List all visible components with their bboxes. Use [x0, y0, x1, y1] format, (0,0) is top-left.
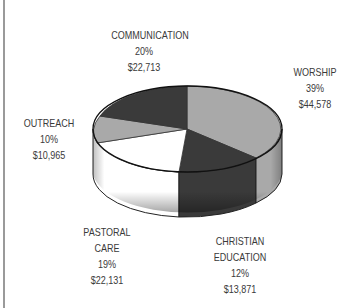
label-worship-amount: $44,578: [286, 96, 343, 112]
label-communication-pct: 20%: [111, 43, 177, 59]
label-outreach-pct: 10%: [24, 131, 75, 147]
label-worship: WORSHIP 39% $44,578: [286, 64, 343, 112]
label-pastoral-care-name2: CARE: [82, 240, 131, 256]
label-communication: COMMUNICATION 20% $22,713: [111, 27, 177, 75]
label-christian-education-pct: 12%: [211, 265, 268, 281]
label-worship-pct: 39%: [286, 80, 343, 96]
label-communication-amount: $22,713: [111, 59, 177, 75]
label-outreach-amount: $10,965: [24, 147, 75, 163]
label-pastoral-care-amount: $22,131: [82, 272, 131, 288]
label-christian-education-amount: $13,871: [211, 281, 268, 297]
label-christian-education-name2: EDUCATION: [211, 249, 268, 265]
label-pastoral-care-name1: PASTORAL: [82, 224, 131, 240]
label-pastoral-care-pct: 19%: [82, 256, 131, 272]
label-outreach-name: OUTREACH: [24, 115, 75, 131]
label-outreach: OUTREACH 10% $10,965: [24, 115, 75, 163]
label-pastoral-care: PASTORAL CARE 19% $22,131: [82, 224, 131, 288]
pie-top-face: [93, 86, 282, 172]
label-communication-name: COMMUNICATION: [111, 27, 177, 43]
label-christian-education: CHRISTIAN EDUCATION 12% $13,871: [211, 233, 268, 297]
label-worship-name: WORSHIP: [286, 64, 343, 80]
label-christian-education-name1: CHRISTIAN: [211, 233, 268, 249]
